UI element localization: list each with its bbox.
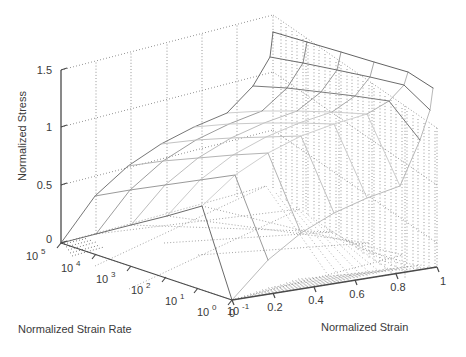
z-tick-label: 0 — [229, 307, 235, 319]
svg-text:10: 10 — [26, 250, 38, 262]
mesh-ridge-lines — [227, 32, 433, 186]
y-tick-label: 0.5 — [37, 179, 52, 191]
svg-text:3: 3 — [111, 270, 116, 279]
z-tick-label: 0.2 — [267, 301, 282, 313]
svg-text:4: 4 — [76, 259, 81, 268]
floor-gridlines — [61, 186, 437, 300]
z-tick-label: 0.6 — [349, 288, 364, 300]
y-axis-title: Normalized Stress — [16, 81, 28, 191]
z-axis-title: Normalized Strain — [321, 321, 408, 333]
x-axis-title: Normalized Strain Rate — [18, 323, 132, 335]
y-tick-label: 1.5 — [37, 64, 52, 76]
figure-3d-surface-plot: 1.5 1 0.5 0 10 5 10 4 10 3 10 2 — [0, 0, 466, 357]
svg-text:10: 10 — [197, 306, 209, 318]
svg-text:10: 10 — [61, 262, 73, 274]
x-tick-label: 10 1 — [165, 292, 185, 307]
z-tick-label: 0.4 — [308, 294, 323, 306]
svg-text:5: 5 — [41, 247, 46, 256]
svg-text:1: 1 — [180, 292, 185, 301]
x-tick-label: 10 2 — [131, 281, 151, 296]
y-tick-label: 0 — [46, 233, 52, 245]
stipple-texture-right — [281, 23, 435, 273]
svg-text:2: 2 — [146, 281, 151, 290]
z-tick-label: 1 — [440, 275, 446, 287]
svg-text:-1: -1 — [242, 302, 250, 311]
x-axis-line — [61, 243, 232, 300]
z-tick-labels: 0 0.2 0.4 0.6 0.8 1 — [229, 275, 446, 319]
svg-text:10: 10 — [131, 284, 143, 296]
z-tick-label: 0.8 — [390, 281, 405, 293]
svg-text:10: 10 — [165, 295, 177, 307]
svg-text:0: 0 — [212, 303, 217, 312]
svg-text:10: 10 — [96, 273, 108, 285]
y-tick-labels: 1.5 1 0.5 0 — [37, 64, 52, 245]
wall-gridlines — [61, 15, 437, 279]
surface-mesh — [61, 32, 433, 300]
x-tick-label: 10 4 — [61, 259, 81, 274]
z-axis-line — [232, 267, 437, 300]
plot-canvas: 1.5 1 0.5 0 10 5 10 4 10 3 10 2 — [0, 0, 466, 357]
x-tick-labels: 10 5 10 4 10 3 10 2 10 1 10 0 — [26, 247, 250, 318]
x-tick-label: 10 5 — [26, 247, 46, 262]
y-tick-label: 1 — [46, 121, 52, 133]
axis-lines — [61, 70, 437, 300]
x-tick-label: 10 0 — [197, 303, 217, 318]
x-tick-label: 10 3 — [96, 270, 116, 285]
